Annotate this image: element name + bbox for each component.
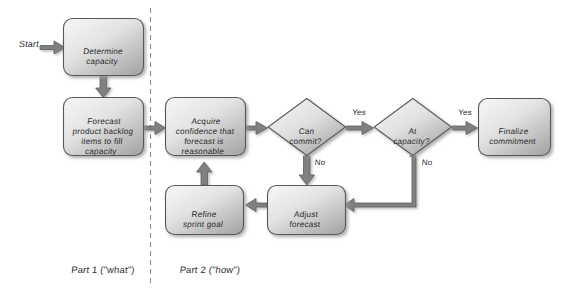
arrow-start-to-determine xyxy=(40,41,65,54)
node-refine-sprint-goal xyxy=(166,186,244,235)
node-forecast-backlog xyxy=(64,98,144,156)
arrow-can-commit-yes-to-at-capacity xyxy=(346,122,374,135)
arrow-determine-to-forecast xyxy=(96,75,111,98)
arrow-at-capacity-no-to-adjust xyxy=(344,156,416,212)
node-at-capacity xyxy=(374,99,451,156)
arrow-adjust-to-refine xyxy=(246,199,268,212)
flowchart-graphics xyxy=(0,0,563,296)
arrow-at-capacity-yes-to-finalize xyxy=(452,122,478,135)
arrow-forecast-to-acquire xyxy=(144,122,166,135)
node-can-commit xyxy=(268,99,345,156)
flowchart-canvas: Start Determine capacity Forecast produc… xyxy=(0,0,563,296)
arrow-acquire-to-can-commit xyxy=(245,122,268,135)
node-finalize-commitment xyxy=(479,99,551,156)
node-determine-capacity xyxy=(64,19,144,76)
node-acquire-confidence xyxy=(166,98,246,156)
arrow-refine-to-acquire xyxy=(197,162,212,185)
arrow-can-commit-no-to-adjust xyxy=(299,156,314,185)
node-adjust-forecast xyxy=(268,186,346,235)
